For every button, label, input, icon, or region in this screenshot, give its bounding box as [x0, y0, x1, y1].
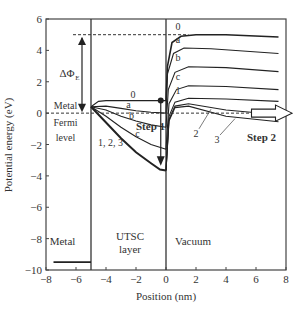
- curve-label-2: 2: [194, 128, 199, 139]
- leader-3: [220, 119, 235, 135]
- energy-band-chart: −8−6−4−202468−10−8−6−4−20246 0abc123 0ab…: [0, 0, 304, 317]
- curve-label-0: 0: [176, 21, 181, 32]
- arrow-down-icon: [78, 104, 86, 113]
- leader-2: [199, 109, 211, 129]
- curve-label-3: 3: [215, 134, 220, 145]
- arrow-down-icon: [157, 156, 165, 165]
- y-axis-label: Potential energy (eV): [2, 97, 15, 192]
- y-tick-label: 4: [37, 44, 43, 56]
- region-label-metal: Metal: [50, 235, 76, 247]
- delta-phi-subscript: E: [75, 74, 79, 82]
- utsc-label-b: b: [129, 110, 134, 121]
- curve-vacuum-b: [166, 67, 279, 127]
- region-label-layer: layer: [119, 243, 141, 255]
- curve-label-1: 1: [176, 85, 181, 96]
- level-label: level: [56, 132, 76, 143]
- y-tick-label: −6: [30, 201, 42, 213]
- y-tick-label: 0: [37, 107, 43, 119]
- region-label-vacuum: Vacuum: [175, 235, 211, 247]
- step2-label: Step 2: [247, 131, 277, 143]
- x-tick-label: 8: [283, 273, 289, 285]
- x-tick-label: −6: [70, 273, 82, 285]
- y-tick-label: 2: [37, 76, 43, 88]
- metal-label: Metal: [54, 100, 78, 111]
- x-axis-label: Position (nm): [136, 290, 197, 303]
- y-tick-label: −2: [30, 139, 42, 151]
- curve-label-b: b: [176, 52, 181, 63]
- step1-label: Step 1: [136, 120, 165, 132]
- x-tick-label: 6: [253, 273, 259, 285]
- fermi-label: Fermi: [54, 117, 78, 128]
- x-tick-label: 2: [193, 273, 199, 285]
- x-tick-label: 0: [163, 273, 169, 285]
- x-tick-label: −4: [100, 273, 112, 285]
- curve-vacuum-a: [166, 48, 279, 113]
- y-tick-label: −8: [30, 233, 42, 245]
- delta-phi-label: ΔΦ: [60, 67, 75, 79]
- x-tick-label: 4: [223, 273, 229, 285]
- y-tick-label: −4: [30, 170, 42, 182]
- curve-label-c: c: [176, 71, 181, 82]
- region-label-utsc: UTSC: [116, 230, 144, 242]
- label-1-2-3: 1, 2, 3: [98, 137, 123, 148]
- utsc-label-0: 0: [131, 89, 136, 100]
- y-tick-label: 6: [37, 13, 43, 25]
- y-tick-label: −10: [25, 264, 43, 276]
- x-tick-label: −2: [130, 273, 142, 285]
- arrow-up-icon: [78, 37, 86, 45]
- utsc-label-a: a: [126, 99, 131, 110]
